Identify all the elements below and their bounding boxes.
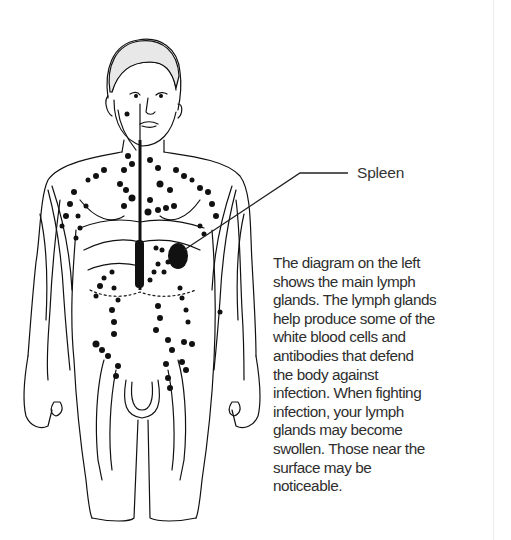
caption-line: surface may be (273, 459, 453, 478)
caption-line: antibodies that defend (273, 347, 453, 366)
thoracic-duct (135, 140, 144, 290)
caption-line: noticeable. (273, 477, 453, 496)
caption-line: infection, your lymph (273, 403, 453, 422)
caption-line: infection. When fighting (273, 384, 453, 403)
caption-line: help produce some of the (273, 310, 453, 329)
spleen-label: Spleen (357, 164, 404, 182)
caption-line: swollen. Those near the (273, 440, 453, 459)
caption-line: shows the main lymph (273, 273, 453, 292)
caption-paragraph: The diagram on the left shows the main l… (273, 254, 453, 496)
caption-line: glands. The lymph glands (273, 291, 453, 310)
spleen-organ (168, 243, 188, 269)
spleen-pointer-line (184, 173, 348, 250)
caption-line: the body against (273, 366, 453, 385)
caption-line: glands may become (273, 421, 453, 440)
caption-line: white blood cells and (273, 328, 453, 347)
caption-line: The diagram on the left (273, 254, 453, 273)
